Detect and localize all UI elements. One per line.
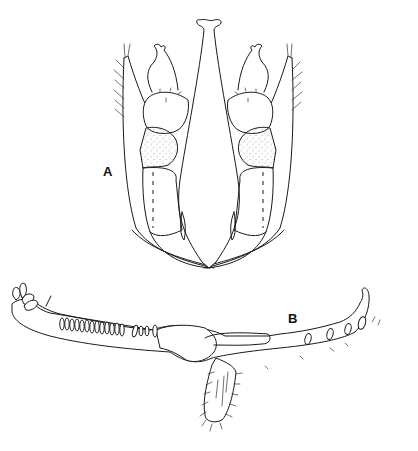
panel-label-a: A — [103, 164, 112, 179]
panel-label-b: B — [288, 311, 297, 326]
panel-b-drawing — [12, 283, 380, 431]
figure-drawing — [0, 0, 418, 451]
panel-a-drawing — [114, 19, 302, 268]
